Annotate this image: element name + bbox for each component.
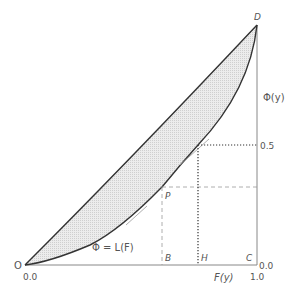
label-H: H <box>201 253 208 263</box>
lorenz-diagram: O D C P B H Φ = L(F) F(y) Φ(y) 0.0 1.0 0… <box>0 0 300 294</box>
y-tick-half: 0.5 <box>260 141 274 151</box>
y-axis-label: Φ(y) <box>263 92 285 103</box>
curve-label: Φ = L(F) <box>92 242 134 253</box>
label-C: C <box>246 253 253 263</box>
x-tick-1: 1.0 <box>250 272 265 282</box>
label-O: O <box>14 260 22 271</box>
label-D: D <box>254 12 261 22</box>
x-axis-label: F(y) <box>214 272 233 283</box>
label-B: B <box>165 253 171 263</box>
label-P: P <box>165 191 171 201</box>
x-tick-0: 0.0 <box>23 272 38 282</box>
y-tick-0: 0.0 <box>259 261 274 271</box>
